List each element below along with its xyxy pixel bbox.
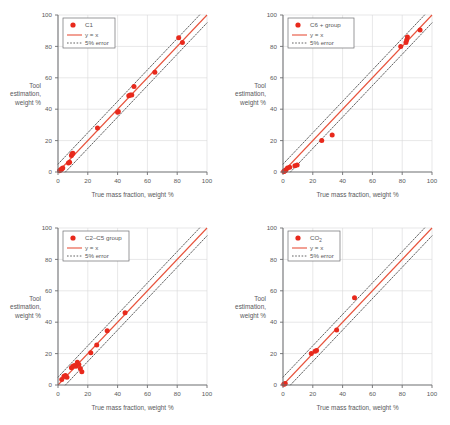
svg-text:estimation,: estimation, [10, 303, 41, 310]
data-point [398, 44, 403, 49]
data-point [95, 126, 100, 131]
x-tick-label: 80 [399, 390, 406, 397]
x-tick-label: 20 [309, 177, 316, 184]
data-point [60, 165, 65, 170]
y-tick-label: 40 [45, 318, 52, 325]
y-tick-label: 20 [270, 350, 277, 357]
x-tick-label: 0 [281, 177, 285, 184]
y-tick-label: 20 [270, 137, 277, 144]
data-points [281, 295, 357, 387]
data-point [64, 375, 69, 380]
svg-text:Tool: Tool [29, 82, 41, 89]
data-point [330, 133, 335, 138]
legend-marker-icon [295, 235, 300, 240]
data-point [129, 93, 134, 98]
data-point [287, 165, 292, 170]
y-tick-label: 80 [45, 43, 52, 50]
y-tick-label: 0 [49, 381, 53, 388]
legend-error-label: 5% error [310, 252, 334, 259]
x-tick-label: 20 [309, 390, 316, 397]
svg-text:estimation,: estimation, [235, 90, 266, 97]
data-point [314, 348, 319, 353]
legend: C2–C5 groupy = x5% error [63, 231, 129, 261]
x-tick-label: 100 [202, 390, 213, 397]
data-point [105, 328, 110, 333]
data-point [352, 295, 357, 300]
legend-identity-label: y = x [310, 31, 324, 38]
data-point [131, 84, 136, 89]
y-tick-label: 0 [274, 168, 278, 175]
chart-panel-1: 020406080100020406080100True mass fracti… [0, 0, 225, 212]
data-point [116, 109, 121, 114]
x-tick-label: 60 [144, 177, 151, 184]
y-axis-label: Toolestimation,weight % [10, 295, 41, 320]
data-point [70, 151, 75, 156]
y-axis-label: Toolestimation,weight % [235, 82, 266, 107]
y-tick-label: 60 [45, 287, 52, 294]
x-tick-label: 20 [84, 177, 91, 184]
legend-identity-label: y = x [85, 31, 99, 38]
data-point [405, 34, 410, 39]
x-tick-label: 0 [281, 390, 285, 397]
legend-marker-icon [295, 22, 300, 27]
svg-text:weight %: weight % [14, 99, 41, 107]
chart-panel-3: 020406080100020406080100True mass fracti… [0, 213, 225, 425]
x-tick-label: 0 [56, 177, 60, 184]
data-point [94, 342, 99, 347]
chart-panel-4: 020406080100020406080100True mass fracti… [225, 213, 450, 425]
y-tick-label: 100 [42, 224, 53, 231]
data-point [176, 35, 181, 40]
svg-text:weight %: weight % [239, 312, 266, 320]
data-point [79, 369, 84, 374]
svg-text:estimation,: estimation, [10, 90, 41, 97]
data-point [334, 328, 339, 333]
x-tick-label: 100 [427, 390, 438, 397]
x-axis-label: True mass fraction, weight % [91, 191, 173, 199]
y-tick-label: 100 [267, 224, 278, 231]
legend: CO2y = x5% error [288, 231, 340, 261]
x-tick-label: 20 [84, 390, 91, 397]
y-tick-label: 40 [270, 318, 277, 325]
legend: C1y = x5% error [63, 18, 115, 48]
legend-series-label: C2–C5 group [85, 234, 122, 241]
x-tick-label: 80 [174, 390, 181, 397]
data-point [295, 162, 300, 167]
legend-series-label: C6 + group [310, 21, 341, 28]
svg-text:Tool: Tool [254, 82, 266, 89]
x-tick-label: 80 [399, 177, 406, 184]
svg-text:weight %: weight % [14, 312, 41, 320]
y-tick-label: 40 [270, 105, 277, 112]
data-point [123, 310, 128, 315]
y-tick-label: 100 [42, 11, 53, 18]
legend-series-label: C1 [85, 21, 93, 28]
y-tick-label: 60 [270, 74, 277, 81]
data-point [319, 138, 324, 143]
x-tick-label: 60 [369, 390, 376, 397]
y-tick-label: 60 [270, 287, 277, 294]
legend-marker-icon [70, 22, 75, 27]
data-point [180, 40, 185, 45]
x-tick-label: 80 [174, 177, 181, 184]
x-axis-label: True mass fraction, weight % [316, 191, 398, 199]
y-tick-label: 80 [45, 256, 52, 263]
x-tick-label: 40 [114, 390, 121, 397]
x-tick-label: 100 [202, 177, 213, 184]
data-point [88, 350, 93, 355]
data-point [67, 160, 72, 165]
x-tick-label: 60 [369, 177, 376, 184]
chart-panel-2: 020406080100020406080100True mass fracti… [225, 0, 450, 212]
legend: C6 + groupy = x5% error [288, 18, 354, 48]
legend-error-label: 5% error [310, 39, 334, 46]
x-tick-label: 40 [114, 177, 121, 184]
x-axis-label: True mass fraction, weight % [316, 404, 398, 412]
y-tick-label: 40 [45, 105, 52, 112]
svg-text:Tool: Tool [254, 295, 266, 302]
y-axis-label: Toolestimation,weight % [10, 82, 41, 107]
y-axis-label: Toolestimation,weight % [235, 295, 266, 320]
x-tick-label: 40 [339, 390, 346, 397]
svg-text:Tool: Tool [29, 295, 41, 302]
x-tick-label: 100 [427, 177, 438, 184]
legend-marker-icon [70, 235, 75, 240]
legend-error-label: 5% error [85, 252, 109, 259]
legend-error-label: 5% error [85, 39, 109, 46]
